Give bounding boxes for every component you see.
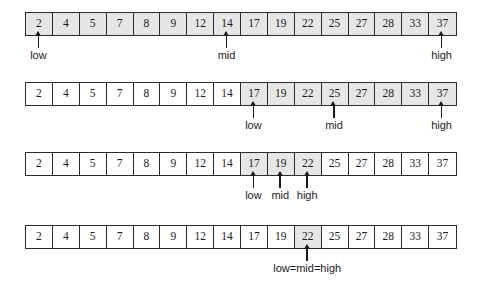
- array-cell: 7: [107, 226, 134, 248]
- array-cell: 8: [134, 13, 161, 35]
- array-row: 24578912141719222527283337: [25, 225, 457, 249]
- array-cell: 22: [295, 83, 322, 105]
- array-cell: 14: [214, 83, 241, 105]
- array-cell: 9: [160, 13, 187, 35]
- array-cell: 33: [402, 153, 429, 175]
- array-cell: 25: [322, 13, 349, 35]
- array-cell: 5: [80, 226, 107, 248]
- array-cell: 33: [402, 83, 429, 105]
- array-cell: 7: [107, 13, 134, 35]
- array-row: 24578912141719222527283337: [25, 152, 457, 176]
- array-cell: 19: [268, 83, 295, 105]
- arrow-shaft: [253, 175, 255, 188]
- array-cell: 4: [53, 13, 80, 35]
- array-cell: 9: [160, 226, 187, 248]
- array-cell: 25: [322, 226, 349, 248]
- array-cell: 28: [375, 13, 402, 35]
- arrow-shaft: [253, 105, 255, 118]
- binary-search-diagram: 24578912141719222527283337lowmidhigh2457…: [0, 0, 482, 289]
- array-cell: 17: [241, 13, 268, 35]
- array-cell: 37: [429, 226, 456, 248]
- array-cell: 27: [349, 153, 376, 175]
- pointer-label: low: [30, 49, 47, 61]
- pointer-label: mid: [271, 189, 289, 201]
- array-cell: 28: [375, 226, 402, 248]
- array-cell: 14: [214, 226, 241, 248]
- array-cell: 7: [107, 83, 134, 105]
- array-cell: 5: [80, 153, 107, 175]
- array-row: 24578912141719222527283337: [25, 82, 457, 106]
- array-cell: 33: [402, 226, 429, 248]
- array-cell: 4: [53, 226, 80, 248]
- array-cell: 4: [53, 153, 80, 175]
- array-cell: 9: [160, 83, 187, 105]
- pointer-label: high: [431, 49, 452, 61]
- arrow-shaft: [279, 175, 281, 188]
- arrow-shaft: [38, 35, 40, 48]
- pointer-label: high: [297, 189, 318, 201]
- array-cell: 14: [214, 153, 241, 175]
- array-cell: 2: [26, 153, 53, 175]
- array-cell: 2: [26, 226, 53, 248]
- array-cell: 5: [80, 13, 107, 35]
- array-cell: 27: [349, 13, 376, 35]
- array-cell: 8: [134, 153, 161, 175]
- array-cell: 28: [375, 153, 402, 175]
- array-cell: 5: [80, 83, 107, 105]
- arrow-shaft: [306, 248, 308, 261]
- array-cell: 22: [295, 13, 322, 35]
- array-cell: 28: [375, 83, 402, 105]
- pointer-label: low: [245, 189, 262, 201]
- array-cell: 12: [187, 153, 214, 175]
- array-cell: 4: [53, 83, 80, 105]
- pointer-label: mid: [325, 119, 343, 131]
- array-cell: 25: [322, 153, 349, 175]
- array-cell: 12: [187, 83, 214, 105]
- array-cell: 33: [402, 13, 429, 35]
- array-cell: 9: [160, 153, 187, 175]
- pointer-label: mid: [218, 49, 236, 61]
- array-cell: 17: [241, 226, 268, 248]
- array-cell: 19: [268, 13, 295, 35]
- arrow-shaft: [333, 105, 335, 118]
- array-cell: 7: [107, 153, 134, 175]
- array-cell: 37: [429, 153, 456, 175]
- array-cell: 12: [187, 226, 214, 248]
- arrow-shaft: [441, 35, 443, 48]
- array-cell: 19: [268, 226, 295, 248]
- pointer-label: high: [431, 119, 452, 131]
- arrow-shaft: [306, 175, 308, 188]
- array-cell: 8: [134, 226, 161, 248]
- pointer-label: low: [245, 119, 262, 131]
- array-row: 24578912141719222527283337: [25, 12, 457, 36]
- array-cell: 2: [26, 83, 53, 105]
- array-cell: 27: [349, 226, 376, 248]
- array-cell: 8: [134, 83, 161, 105]
- array-cell: 27: [349, 83, 376, 105]
- pointer-label: low=mid=high: [273, 262, 341, 274]
- arrow-shaft: [226, 35, 228, 48]
- array-cell: 12: [187, 13, 214, 35]
- arrow-shaft: [441, 105, 443, 118]
